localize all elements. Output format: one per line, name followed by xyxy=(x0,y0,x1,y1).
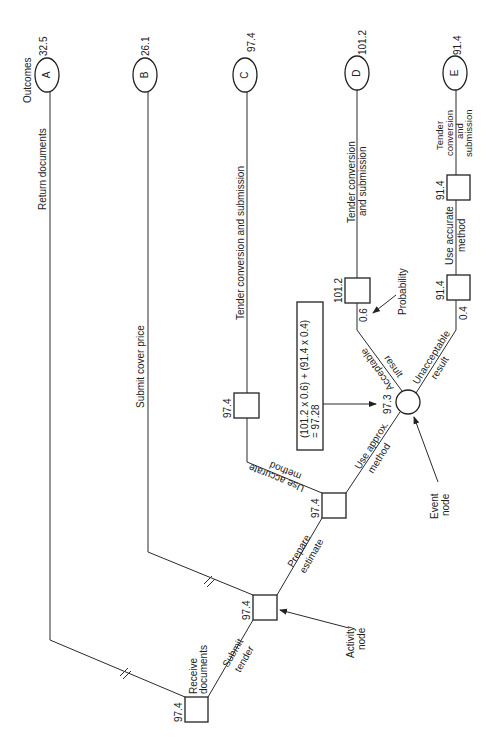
probability-acceptable: 0.6 xyxy=(358,308,369,322)
outcome-a: A xyxy=(35,58,59,92)
activity-node-accurate-c xyxy=(234,393,259,418)
svg-text:C: C xyxy=(239,71,250,78)
e-upper-value: 91.4 xyxy=(435,180,446,200)
outcome-b-value: 26.1 xyxy=(140,36,151,56)
submit-value: 97.4 xyxy=(241,600,252,620)
activity-annotation-1: Activity xyxy=(345,626,356,658)
label-return-documents: Return documents xyxy=(37,128,48,210)
formula-line-1: (101.2 x 0.6) + (91.4 x 0.4) xyxy=(299,320,310,438)
probability-arrow-icon xyxy=(373,295,396,313)
event-annotation-2: node xyxy=(440,493,451,516)
d-box-value: 101.2 xyxy=(333,278,344,303)
activity-node-e-upper xyxy=(447,175,470,200)
event-node-value: 97.3 xyxy=(382,394,393,414)
branch-line-a xyxy=(50,88,185,697)
activity-node-prepare xyxy=(322,493,346,518)
label-tender-conv-c: Tender conversion and submission xyxy=(235,166,246,320)
event-arrow-icon xyxy=(414,417,438,482)
label-tender-conv-d-1: Tender conversion xyxy=(346,141,357,223)
activity-node-submit xyxy=(253,595,277,620)
e-lower-value: 91.4 xyxy=(435,280,446,300)
outcome-e: E xyxy=(443,56,467,90)
outcomes-label: Outcomes xyxy=(22,57,33,103)
prepare-value: 97.4 xyxy=(310,498,321,518)
activity-annotation-2: node xyxy=(356,627,367,650)
label-tender-e-4: submission xyxy=(463,109,474,157)
activity-arrow-icon xyxy=(280,610,349,628)
outcome-e-value: 91.4 xyxy=(452,35,463,55)
label-submit-cover-price: Submit cover price xyxy=(135,325,146,408)
outcome-a-value: 32.5 xyxy=(38,36,49,56)
event-annotation-1: Event xyxy=(429,493,440,519)
accurate-c-value: 97.4 xyxy=(222,398,233,418)
outcome-d-value: 101.2 xyxy=(357,30,368,55)
activity-node-d xyxy=(345,278,370,303)
outcome-c-value: 97.4 xyxy=(246,32,257,52)
activity-node-receive xyxy=(185,697,208,722)
probability-annotation: Probability xyxy=(397,268,408,315)
svg-text:D: D xyxy=(351,69,362,76)
label-tender-conv-d-2: and submission xyxy=(357,147,368,216)
svg-text:B: B xyxy=(139,71,150,78)
formula-line-2: = 97.28 xyxy=(310,404,321,438)
svg-text:A: A xyxy=(41,71,52,78)
branch-line-b xyxy=(148,88,253,595)
receive-label-2: documents xyxy=(198,645,209,694)
use-accurate-e-label-1: Use accurate xyxy=(444,206,455,265)
decision-tree-diagram: A B C D E 32.5 26.1 97.4 101.2 91.4 Outc… xyxy=(0,0,490,743)
outcome-b: B xyxy=(133,58,157,92)
probability-unacceptable: 0.4 xyxy=(458,306,469,320)
use-accurate-e-label-2: method xyxy=(456,219,467,252)
event-node xyxy=(396,390,420,414)
svg-text:E: E xyxy=(449,69,460,76)
activity-node-e-lower xyxy=(447,275,470,300)
outcome-c: C xyxy=(233,58,257,92)
receive-value: 97.4 xyxy=(173,702,184,722)
outcome-d: D xyxy=(345,56,369,90)
